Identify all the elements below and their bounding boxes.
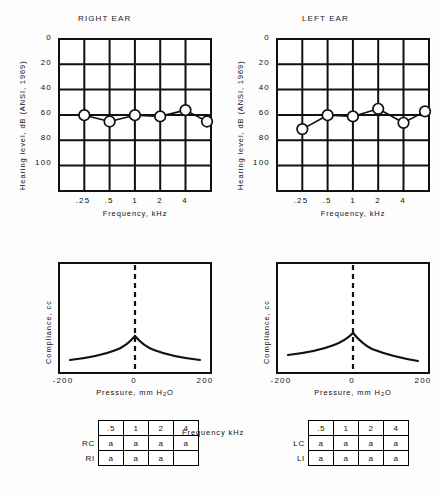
right-audiogram-ytick-20: 20 bbox=[26, 58, 52, 67]
reflex-cell-lc-4[interactable]: a bbox=[384, 436, 409, 451]
pressure-label-suffix: O bbox=[167, 388, 174, 397]
left-audiogram-ytick-60: 60 bbox=[244, 108, 270, 117]
left-tympanogram-xtick-200: 200 bbox=[408, 376, 438, 385]
right-tympanogram-plot bbox=[58, 262, 212, 374]
left-audiogram-xtick-4: 4 bbox=[390, 196, 416, 205]
right-audiogram-xtick-2: 2 bbox=[147, 196, 173, 205]
table-row: RI a a a bbox=[75, 451, 199, 466]
table-row: RC a a a a bbox=[75, 436, 199, 451]
left-tympanogram-x-axis-label: Pressure, mm H2O bbox=[288, 388, 418, 397]
right-ear-title: RIGHT EAR bbox=[78, 14, 131, 23]
reflex-cell-li-4[interactable]: a bbox=[384, 451, 409, 466]
left-audiogram-ytick-0: 0 bbox=[244, 33, 270, 42]
right-audiogram-ytick-0: 0 bbox=[26, 33, 52, 42]
reflex-cell-ri-4[interactable] bbox=[174, 451, 199, 466]
reflex-header-05: .5 bbox=[99, 421, 124, 436]
left-tympanogram-plot bbox=[276, 262, 430, 374]
right-audiogram-ytick-80: 80 bbox=[26, 133, 52, 142]
pressure-label-text: Pressure, mm H bbox=[96, 388, 163, 397]
right-audiogram-x-axis-label: Frequency, kHz bbox=[75, 209, 195, 218]
figure-canvas: RIGHT EAR Hearing level, dB (ANSI, 1969)… bbox=[0, 0, 443, 493]
left-ear-audiogram-panel: LEFT EAR Hearing level, dB (ANSI, 1969) … bbox=[218, 0, 443, 235]
right-audiogram-plot bbox=[58, 38, 212, 192]
table-row: LI a a a a bbox=[285, 451, 409, 466]
pressure-label-text: Pressure, mm H bbox=[314, 388, 381, 397]
reflex-frequency-caption: Frequency kHz bbox=[182, 428, 244, 437]
reflex-cell-li-1[interactable]: a bbox=[334, 451, 359, 466]
reflex-cell-lc-05[interactable]: a bbox=[309, 436, 334, 451]
right-tympanogram-x-axis-label: Pressure, mm H2O bbox=[70, 388, 200, 397]
left-tympanogram-xtick-neg200: -200 bbox=[264, 376, 298, 385]
right-ear-audiogram-panel: RIGHT EAR Hearing level, dB (ANSI, 1969)… bbox=[0, 0, 225, 235]
reflex-cell-rc-4[interactable]: a bbox=[174, 436, 199, 451]
left-audiogram-plot bbox=[276, 38, 430, 192]
left-audiogram-ytick-40: 40 bbox=[244, 83, 270, 92]
left-tympanogram-y-axis-label: Compliance, cc bbox=[262, 300, 271, 364]
left-audiogram-y-axis-label: Hearing level, dB (ANSI, 1969) bbox=[236, 60, 245, 190]
right-tympanogram-xtick-200: 200 bbox=[190, 376, 220, 385]
reflex-cell-rc-05[interactable]: a bbox=[99, 436, 124, 451]
right-tympanogram-y-axis-label: Compliance, cc bbox=[44, 300, 53, 364]
left-audiogram-x-axis-label: Frequency, kHz bbox=[293, 209, 413, 218]
left-audiogram-xtick-05: .5 bbox=[314, 196, 340, 205]
pressure-label-suffix: O bbox=[385, 388, 392, 397]
reflex-header-1: 1 bbox=[124, 421, 149, 436]
left-audiogram-xtick-1: 1 bbox=[340, 196, 366, 205]
reflex-cell-lc-1[interactable]: a bbox=[334, 436, 359, 451]
reflex-header-4: 4 bbox=[384, 421, 409, 436]
right-tympanogram-xtick-0: 0 bbox=[122, 376, 146, 385]
reflex-cell-ri-1[interactable]: a bbox=[124, 451, 149, 466]
table-header-row: .5 1 2 4 bbox=[75, 421, 199, 436]
right-audiogram-y-axis-label: Hearing level, dB (ANSI, 1969) bbox=[18, 60, 27, 190]
reflex-cell-ri-05[interactable]: a bbox=[99, 451, 124, 466]
reflex-header-05: .5 bbox=[309, 421, 334, 436]
table-row: LC a a a a bbox=[285, 436, 409, 451]
reflex-cell-li-2[interactable]: a bbox=[359, 451, 384, 466]
reflex-header-2: 2 bbox=[359, 421, 384, 436]
right-audiogram-xtick-1: 1 bbox=[122, 196, 148, 205]
reflex-cell-li-05[interactable]: a bbox=[309, 451, 334, 466]
right-tympanogram-panel: Compliance, cc -200 0 200 Pressure, mm H… bbox=[0, 250, 225, 400]
reflex-row-label-lc: LC bbox=[285, 436, 309, 451]
header-corner-spacer bbox=[75, 421, 99, 436]
reflex-cell-rc-1[interactable]: a bbox=[124, 436, 149, 451]
reflex-row-label-rc: RC bbox=[75, 436, 99, 451]
right-audiogram-xtick-4: 4 bbox=[172, 196, 198, 205]
table-header-row: .5 1 2 4 bbox=[285, 421, 409, 436]
right-audiogram-xtick-05: .5 bbox=[96, 196, 122, 205]
right-audiogram-ytick-60: 60 bbox=[26, 108, 52, 117]
left-tympanogram-panel: Compliance, cc -200 0 200 Pressure, mm H… bbox=[218, 250, 443, 400]
reflex-header-1: 1 bbox=[334, 421, 359, 436]
left-audiogram-xtick-025: .25 bbox=[288, 196, 314, 205]
right-ear-reflex-table: .5 1 2 4 RC a a a a RI a a a bbox=[75, 420, 199, 466]
left-ear-title: LEFT EAR bbox=[302, 14, 349, 23]
reflex-cell-rc-2[interactable]: a bbox=[149, 436, 174, 451]
left-audiogram-ytick-80: 80 bbox=[244, 133, 270, 142]
right-tympanogram-xtick-neg200: -200 bbox=[46, 376, 80, 385]
right-audiogram-ytick-40: 40 bbox=[26, 83, 52, 92]
left-audiogram-xtick-2: 2 bbox=[365, 196, 391, 205]
reflex-cell-lc-2[interactable]: a bbox=[359, 436, 384, 451]
left-ear-reflex-table: .5 1 2 4 LC a a a a LI a a a a bbox=[285, 420, 409, 466]
reflex-row-label-li: LI bbox=[285, 451, 309, 466]
left-audiogram-ytick-20: 20 bbox=[244, 58, 270, 67]
left-audiogram-ytick-100: 100 bbox=[242, 158, 270, 167]
left-tympanogram-xtick-0: 0 bbox=[340, 376, 364, 385]
right-audiogram-xtick-025: .25 bbox=[70, 196, 96, 205]
right-audiogram-ytick-100: 100 bbox=[24, 158, 52, 167]
reflex-row-label-ri: RI bbox=[75, 451, 99, 466]
header-corner-spacer bbox=[285, 421, 309, 436]
reflex-header-2: 2 bbox=[149, 421, 174, 436]
reflex-cell-ri-2[interactable]: a bbox=[149, 451, 174, 466]
